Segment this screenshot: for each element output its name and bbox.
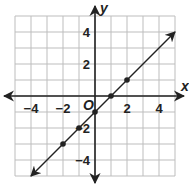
y-tick-label: 2 <box>83 57 90 72</box>
x-tick-label: 2 <box>123 101 130 116</box>
y-axis-label: y <box>99 0 109 16</box>
coordinate-plane: xyO−4−22442−2−4 <box>0 0 189 185</box>
data-point <box>124 77 130 83</box>
graph-line <box>31 32 175 176</box>
origin-label: O <box>83 97 94 113</box>
x-tick-label: 4 <box>155 101 163 116</box>
y-tick-label: 4 <box>83 25 91 40</box>
x-axis-label: x <box>180 78 189 94</box>
data-point <box>92 109 98 115</box>
data-point <box>108 93 114 99</box>
y-tick-label: −4 <box>75 153 91 168</box>
x-tick-label: −2 <box>56 101 71 116</box>
x-tick-label: −4 <box>24 101 40 116</box>
data-point <box>60 141 66 147</box>
data-point <box>76 125 82 131</box>
